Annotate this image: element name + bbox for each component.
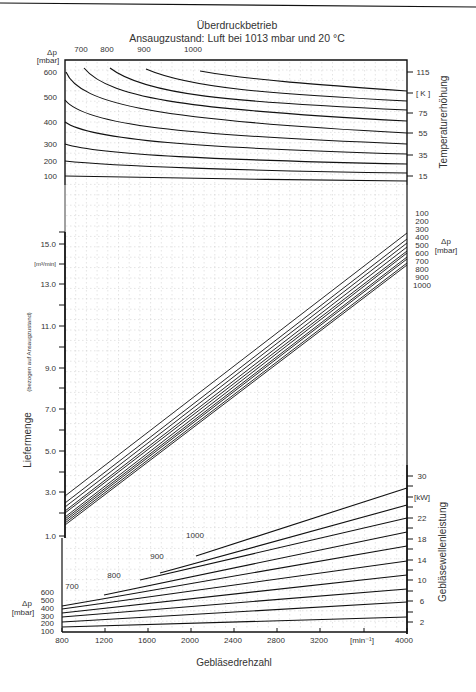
top-tick-600: 600 bbox=[44, 68, 58, 77]
blower-performance-chart: Überdruckbetrieb Ansaugzustand: Luft bei… bbox=[0, 0, 476, 692]
x-axis-title: Gebläsedrehzahl bbox=[196, 657, 272, 668]
top-curve-label-700: 700 bbox=[74, 45, 88, 54]
temp-curve-100 bbox=[65, 176, 407, 181]
temp-curve-700 bbox=[84, 68, 407, 121]
flow-tick-11: 11.0 bbox=[41, 322, 57, 331]
bottom-tick-100: 100 bbox=[41, 627, 55, 636]
temp-curve-900 bbox=[146, 69, 407, 101]
kw-tick-6: 6 bbox=[420, 597, 425, 606]
temp-tick-55: 55 bbox=[419, 129, 428, 138]
flow-tick-15: 15.0 bbox=[40, 240, 56, 249]
bottom-panel: 800 1200 1600 2000 2400 2800 3200 [min⁻¹… bbox=[12, 465, 448, 668]
kw-tick-2: 2 bbox=[420, 618, 425, 627]
legend-delta-p-unit: [mbar] bbox=[435, 246, 458, 255]
power-curve-label-800: 800 bbox=[107, 571, 121, 580]
flow-unit: [m³/min] bbox=[34, 261, 56, 267]
top-curve-label-1000: 1000 bbox=[184, 45, 202, 54]
flow-axis-subtitle: (bezogen auf Ansaugzustand) bbox=[26, 312, 32, 392]
kw-tick-30: 30 bbox=[418, 472, 427, 481]
middle-panel: 15.0 [m³/min] 13.0 11.0 9.0 7.0 5.0 3.0 … bbox=[22, 185, 457, 541]
temp-tick-75: 75 bbox=[419, 109, 428, 118]
kw-tick-10: 10 bbox=[418, 576, 427, 585]
temp-curve-600 bbox=[66, 72, 407, 133]
temp-tick-15: 15 bbox=[419, 172, 428, 181]
temp-axis-title: Temperaturerhöhung bbox=[438, 76, 449, 169]
temp-tick-115: 115 bbox=[417, 68, 430, 77]
flow-tick-9: 9.0 bbox=[45, 364, 57, 373]
chart-title: Überdruckbetrieb bbox=[197, 19, 278, 31]
temp-curve-800 bbox=[110, 68, 407, 110]
flow-lines bbox=[65, 233, 407, 525]
power-lines bbox=[62, 488, 407, 627]
top-delta-p-unit: [mbar] bbox=[37, 56, 60, 65]
flow-tick-13: 13.0 bbox=[40, 280, 56, 289]
x-tick-1200: 1200 bbox=[95, 636, 113, 645]
power-curve-label-900: 900 bbox=[150, 552, 164, 561]
top-panel: Δp [mbar] 600 500 400 300 200 100 700 80… bbox=[37, 45, 449, 185]
kw-tick-22: 22 bbox=[418, 514, 427, 523]
flow-tick-5: 5.0 bbox=[45, 447, 57, 456]
top-tick-500: 500 bbox=[44, 93, 58, 102]
flow-tick-1: 1.0 bbox=[45, 532, 57, 541]
chart-subtitle: Ansaugzustand: Luft bei 1013 mbar und 20… bbox=[129, 32, 345, 44]
kw-unit: [kW] bbox=[414, 493, 430, 502]
x-tick-3200: 3200 bbox=[310, 636, 328, 645]
x-unit: [min⁻¹] bbox=[350, 636, 374, 645]
temp-tick-35: 35 bbox=[419, 151, 428, 160]
temp-unit: [ K ] bbox=[416, 89, 430, 98]
top-tick-100: 100 bbox=[44, 172, 58, 181]
flow-axis-title: Liefermenge bbox=[22, 412, 33, 468]
top-curve-label-900: 900 bbox=[137, 45, 151, 54]
x-tick-2000: 2000 bbox=[181, 636, 199, 645]
top-tick-400: 400 bbox=[44, 118, 58, 127]
kw-tick-18: 18 bbox=[418, 535, 427, 544]
bottom-delta-p-unit: [mbar] bbox=[12, 608, 35, 617]
power-axis-title: Gebläsewellenleistung bbox=[437, 502, 448, 602]
page-top-rule bbox=[0, 3, 476, 7]
bottom-delta-p-label: Δp bbox=[22, 599, 32, 608]
top-tick-300: 300 bbox=[44, 140, 58, 149]
kw-tick-14: 14 bbox=[418, 556, 427, 565]
top-curve-label-800: 800 bbox=[100, 45, 114, 54]
flow-tick-3: 3.0 bbox=[45, 488, 57, 497]
power-curve-label-1000: 1000 bbox=[186, 531, 204, 540]
delta-p-legend: 100 200 300 400 500 600 700 800 900 1000… bbox=[413, 209, 457, 290]
flow-tick-7: 7.0 bbox=[45, 405, 57, 414]
top-right-ticks bbox=[407, 72, 413, 176]
top-tick-200: 200 bbox=[44, 157, 58, 166]
x-tick-2400: 2400 bbox=[224, 636, 242, 645]
power-curve-label-700: 700 bbox=[65, 582, 79, 591]
x-tick-1600: 1600 bbox=[138, 636, 156, 645]
x-tick-4000: 4000 bbox=[395, 636, 413, 645]
legend-delta-p-label: Δp bbox=[441, 237, 451, 246]
legend-1000: 1000 bbox=[413, 281, 431, 290]
x-tick-2800: 2800 bbox=[267, 636, 285, 645]
x-tick-800: 800 bbox=[55, 636, 69, 645]
